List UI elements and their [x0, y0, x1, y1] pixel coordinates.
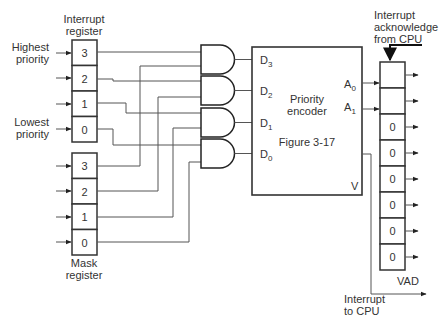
and-gate-0 [201, 139, 234, 168]
vad-bit: 0 [389, 251, 395, 263]
vad-register: 0 0 0 0 0 0 VAD [380, 62, 419, 287]
interrupt-register-bit-label: 0 [81, 124, 87, 136]
vad-cell [380, 62, 405, 88]
interrupt-register-bit-label: 3 [81, 47, 87, 59]
lowest-priority-label-line1: Lowest [14, 116, 49, 128]
interrupt-register: Interrupt register 3 2 1 0 Highest prior… [12, 13, 105, 142]
and-gate-1 [201, 108, 234, 137]
and-gate-3 [201, 45, 234, 74]
highest-priority-label-line1: Highest [12, 41, 49, 53]
mask-wires [97, 66, 201, 242]
interrupt-register-title-line2: register [66, 25, 103, 37]
ack-label-line2: acknowledge [374, 21, 438, 33]
and-gate-2 [201, 76, 234, 105]
mask-register-title-line2: register [66, 269, 103, 281]
vad-label: VAD [397, 275, 419, 287]
interrupt-register-bit-label: 2 [81, 73, 87, 85]
vad-bit: 0 [389, 147, 395, 159]
priority-encoder-box [252, 47, 362, 195]
vad-bit: 0 [389, 225, 395, 237]
mask-register-bit-label: 2 [81, 186, 87, 198]
ack-arrow-icon [390, 45, 422, 60]
highest-priority-label-line2: priority [16, 53, 50, 65]
priority-interrupt-diagram: Interrupt register 3 2 1 0 Highest prior… [0, 0, 445, 329]
and-gates [201, 45, 252, 168]
mask-register-bit-label: 1 [81, 211, 87, 223]
vad-cell [380, 88, 405, 114]
interrupt-register-title-line1: Interrupt [64, 13, 105, 25]
mask-register: 3 2 1 0 Mask register [56, 153, 103, 281]
mask-register-title-line1: Mask [71, 257, 98, 269]
encoder-title-line1: Priority [290, 93, 325, 105]
valid-output-label: V [351, 180, 359, 192]
lowest-priority-label-line2: priority [16, 128, 50, 140]
ack-label-line1: Interrupt [374, 9, 415, 21]
vad-bit: 0 [389, 173, 395, 185]
mask-register-bit-label: 0 [81, 237, 87, 249]
figure-caption: Figure 3-17 [279, 136, 335, 148]
int-to-cpu-label-line2: to CPU [344, 305, 380, 317]
priority-encoder: D3 D2 D1 D0 A0 A1 Priority encoder Figur… [252, 47, 362, 195]
vad-bit: 0 [389, 121, 395, 133]
vad-bit: 0 [389, 199, 395, 211]
mask-register-bit-label: 3 [81, 160, 87, 172]
ack-label-line3: from CPU [374, 33, 422, 45]
encoder-title-line2: encoder [287, 105, 327, 117]
interrupt-register-bit-label: 1 [81, 98, 87, 110]
interrupt-acknowledge: Interrupt acknowledge from CPU [374, 9, 438, 60]
int-to-cpu-label-line1: Interrupt [344, 293, 385, 305]
